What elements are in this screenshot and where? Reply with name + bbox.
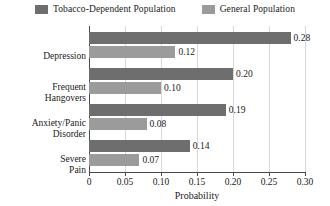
bar-value-label: 0.08	[150, 118, 167, 130]
bar	[89, 32, 291, 44]
x-axis-tick-label: 0	[87, 177, 92, 188]
y-axis-label-frequent-hangovers: Frequent Hangovers	[0, 82, 86, 104]
legend-item-general-population: General Population	[202, 4, 295, 14]
legend-item-tobacco-dependent-population: Tobacco-Dependent Population	[35, 4, 176, 14]
x-axis-tick-label: 0.05	[117, 177, 134, 188]
y-axis-category-labels: Depression Frequent Hangovers Anxiety/Pa…	[0, 26, 86, 172]
bar-value-label: 0.12	[178, 46, 195, 58]
x-axis-tick-label: 0.20	[225, 177, 242, 188]
y-axis-label-line: Hangovers	[0, 93, 86, 104]
bar-value-label: 0.19	[229, 104, 246, 116]
bar-value-label: 0.14	[193, 140, 210, 152]
bar	[89, 46, 175, 58]
x-axis-tick	[197, 172, 198, 176]
bar	[89, 104, 226, 116]
plot-area: 0.280.120.200.100.190.080.140.07	[89, 26, 305, 172]
x-axis-tick-label: 0.15	[189, 177, 206, 188]
gridline	[269, 26, 270, 172]
y-axis-label-line: Frequent	[0, 82, 86, 93]
bar-value-label: 0.20	[236, 68, 253, 80]
gridline	[305, 26, 306, 172]
y-axis-label-depression: Depression	[0, 51, 86, 62]
y-axis-label-anxiety-panic-disorder: Anxiety/Panic Disorder	[0, 118, 86, 140]
legend-label: Tobacco-Dependent Population	[53, 4, 176, 14]
bar	[89, 118, 147, 130]
y-axis-label-line: Pain	[0, 165, 86, 176]
x-axis-tick	[269, 172, 270, 176]
y-axis-label-severe-pain: Severe Pain	[0, 154, 86, 176]
y-axis-label-line: Severe	[0, 154, 86, 165]
legend-swatch-icon	[202, 5, 215, 14]
y-axis-label-line: Anxiety/Panic	[0, 118, 86, 129]
grouped-bar-chart: Tobacco-Dependent Population General Pop…	[0, 0, 330, 206]
x-axis-tick	[125, 172, 126, 176]
bar	[89, 68, 233, 80]
x-axis-tick-label: 0.25	[261, 177, 278, 188]
chart-legend: Tobacco-Dependent Population General Pop…	[0, 2, 330, 16]
bar-value-label: 0.07	[142, 154, 159, 166]
y-axis-label-line: Depression	[0, 51, 86, 62]
y-axis-label-line: Disorder	[0, 129, 86, 140]
x-axis-tick	[305, 172, 306, 176]
x-axis-tick-label: 0.10	[153, 177, 170, 188]
bar	[89, 154, 139, 166]
bar	[89, 82, 161, 94]
gridline	[233, 26, 234, 172]
bar-value-label: 0.28	[294, 32, 311, 44]
x-axis-tick-label: 0.30	[297, 177, 314, 188]
legend-swatch-icon	[35, 5, 48, 14]
legend-label: General Population	[220, 4, 295, 14]
x-axis-title: Probability	[89, 190, 305, 202]
x-axis-tick	[161, 172, 162, 176]
bar	[89, 140, 190, 152]
bar-value-label: 0.10	[164, 82, 181, 94]
x-axis-tick	[89, 172, 90, 176]
x-axis-tick	[233, 172, 234, 176]
